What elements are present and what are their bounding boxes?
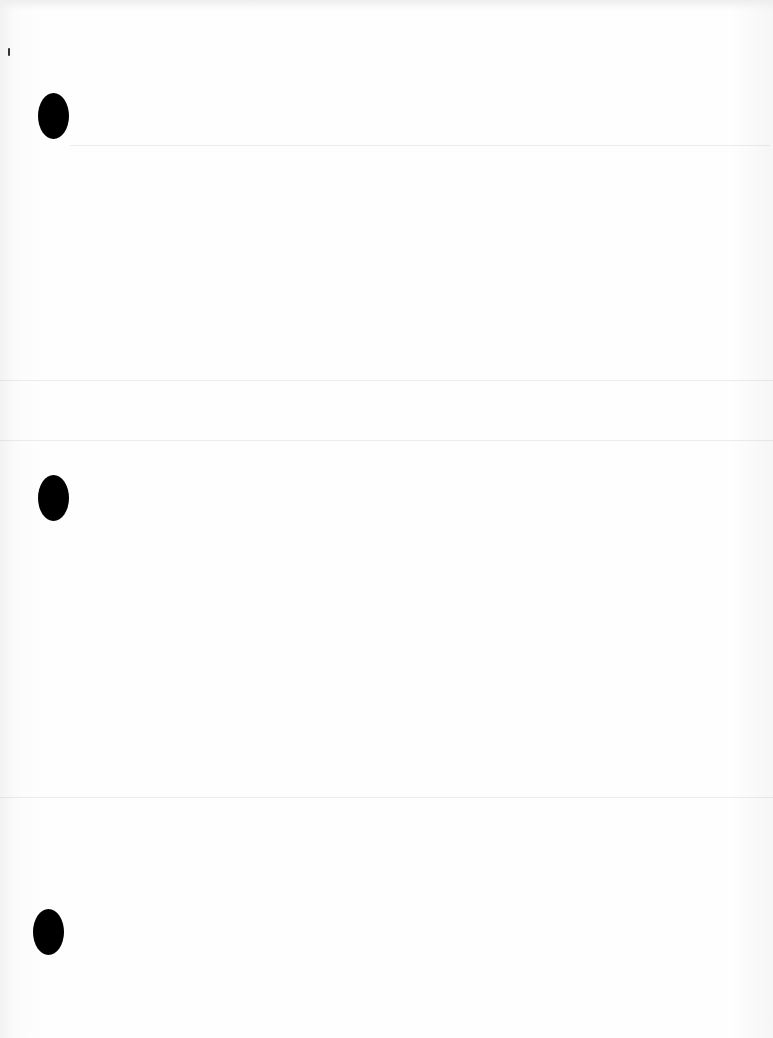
- punch-hole: [38, 475, 69, 521]
- scanned-page: [0, 0, 773, 1038]
- edge-mark: [8, 48, 10, 56]
- bleed-through-line: [0, 440, 773, 441]
- punch-hole: [33, 909, 64, 955]
- bleed-through-line: [70, 145, 770, 146]
- scan-edge-shadow: [0, 0, 773, 10]
- bleed-through-line: [0, 380, 773, 381]
- punch-hole: [38, 93, 69, 139]
- bleed-through-line: [0, 797, 773, 798]
